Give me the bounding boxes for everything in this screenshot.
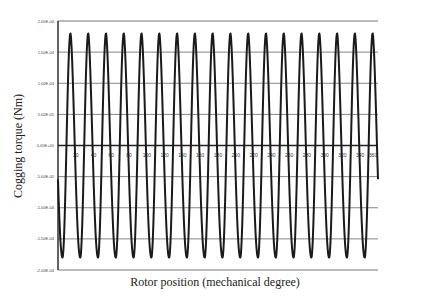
- y-tick-labels: 2.00E-041.50E-041.00E-045.00E-050.00E+00…: [36, 19, 54, 273]
- y-tick-label: 5.00E-05: [38, 112, 55, 117]
- y-tick-label: 1.00E-04: [38, 81, 55, 86]
- y-tick-label: -1.50E-04: [36, 236, 54, 241]
- y-tick-label: -1.00E-04: [36, 205, 54, 210]
- y-tick-label: -5.00E-05: [36, 174, 54, 179]
- y-tick-label: 2.00E-04: [38, 19, 55, 24]
- y-tick-label: 0.00E+00: [37, 143, 55, 148]
- x-axis-title: Rotor position (mechanical degree): [130, 275, 300, 289]
- x-tick-label: 360: [369, 152, 378, 158]
- y-tick-label: -2.00E-04: [36, 268, 54, 273]
- y-tick-label: 1.50E-04: [38, 50, 55, 55]
- cogging-torque-chart: 2.00E-041.50E-041.00E-045.00E-050.00E+00…: [0, 0, 422, 302]
- y-axis-title: Cogging torque (Nm): [11, 94, 25, 198]
